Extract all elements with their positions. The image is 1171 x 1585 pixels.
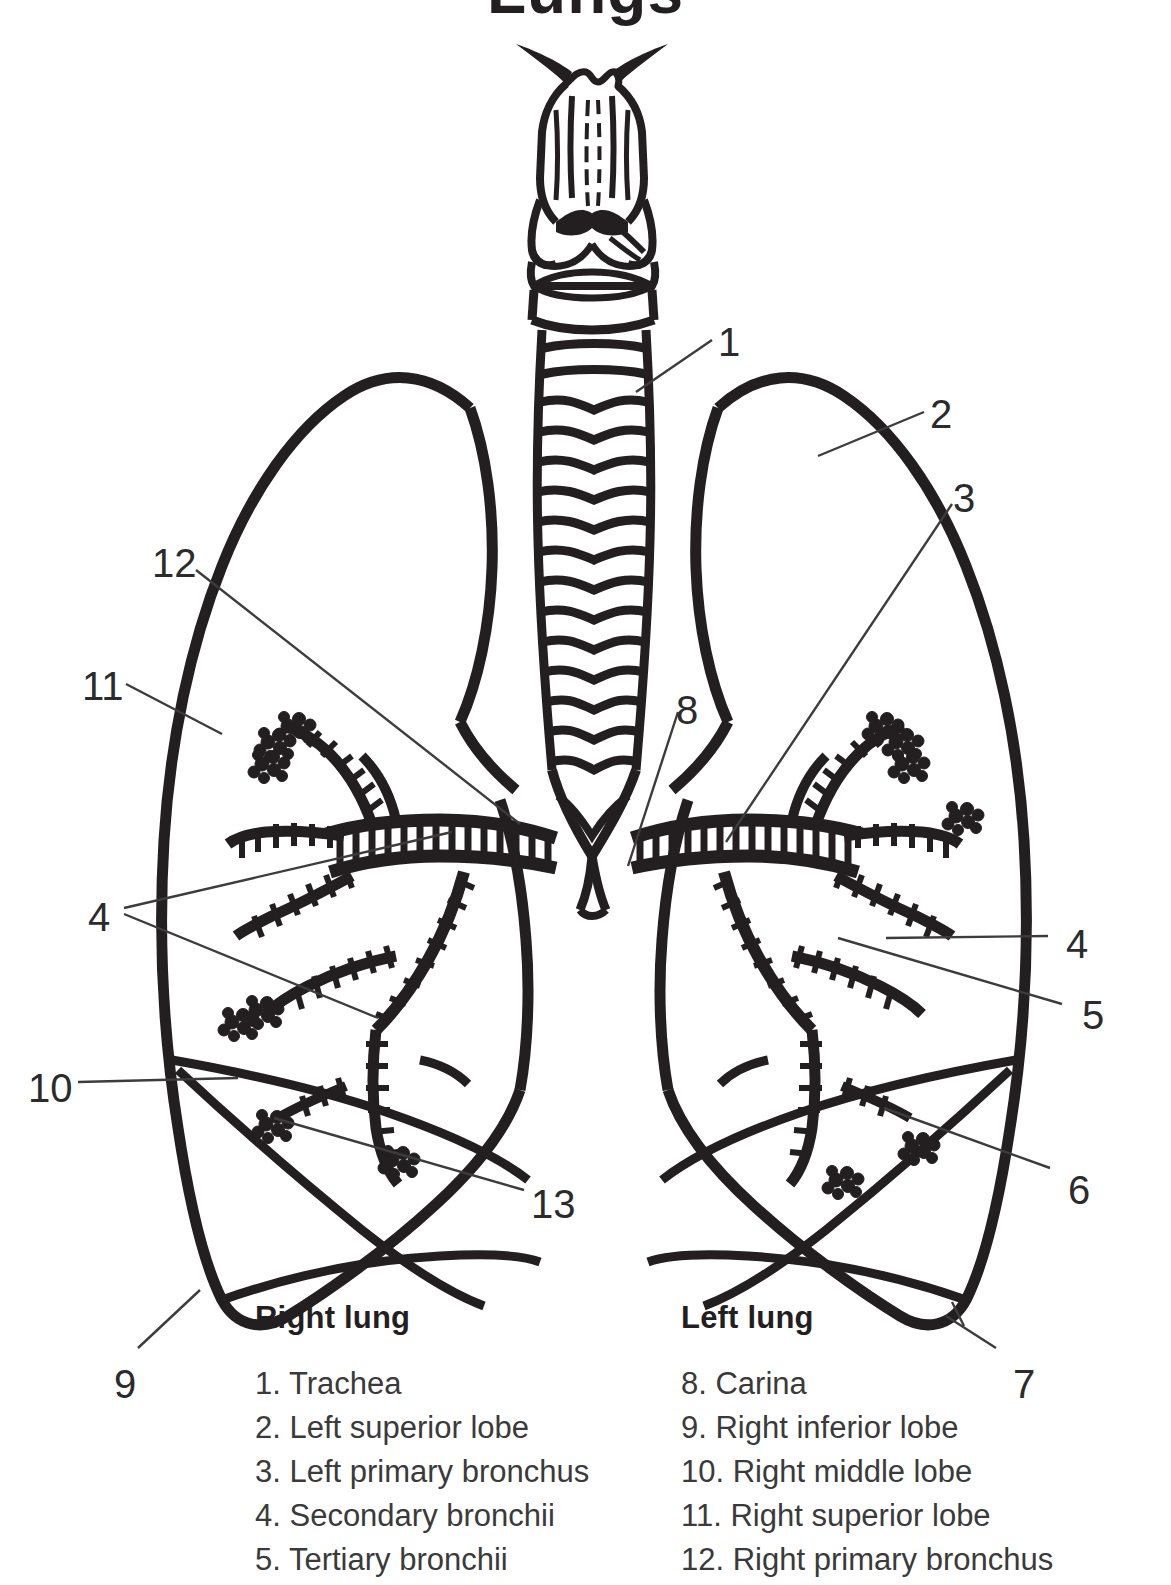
legend-item: 2. Left superior lobe — [255, 1406, 589, 1450]
leader-10 — [78, 1078, 238, 1082]
legend-item: 11. Right superior lobe — [681, 1494, 1053, 1538]
legend-heading-right-lung: Right lung — [255, 1300, 589, 1336]
callout-3: 3 — [953, 478, 975, 518]
callout-4-left-lung: 4 — [1066, 924, 1088, 964]
legend-heading-left-lung: Left lung — [681, 1300, 1053, 1336]
legend-item: 4. Secondary bronchii — [255, 1494, 589, 1538]
legend-item: 1. Trachea — [255, 1362, 589, 1406]
callout-2: 2 — [930, 394, 952, 434]
legend-item: 8. Carina — [681, 1362, 1053, 1406]
callout-8: 8 — [676, 690, 698, 730]
legend-item: 10. Right middle lobe — [681, 1450, 1053, 1494]
legend-item: 5. Tertiary bronchii — [255, 1538, 589, 1582]
callout-12: 12 — [152, 543, 197, 583]
legend: Right lung 1. Trachea 2. Left superior l… — [0, 1300, 1171, 1585]
leader-3 — [726, 504, 952, 842]
callout-13: 13 — [531, 1184, 576, 1224]
legend-item: 9. Right inferior lobe — [681, 1406, 1053, 1450]
legend-item: 12. Right primary bronchus — [681, 1538, 1053, 1582]
callout-4-right-lung: 4 — [88, 897, 110, 937]
lungs-diagram-page: Lungs — [0, 0, 1171, 1585]
right-lung-fissures — [172, 1060, 540, 1306]
callout-5: 5 — [1082, 995, 1104, 1035]
legend-column-left-lung: Left lung 8. Carina 9. Right inferior lo… — [681, 1300, 1053, 1582]
callout-6: 6 — [1068, 1170, 1090, 1210]
larynx — [516, 44, 668, 330]
callout-10: 10 — [28, 1068, 73, 1108]
callout-1: 1 — [718, 322, 740, 362]
callout-11: 11 — [82, 666, 124, 706]
legend-list-left-lung: 8. Carina 9. Right inferior lobe 10. Rig… — [681, 1362, 1053, 1582]
legend-item: 3. Left primary bronchus — [255, 1450, 589, 1494]
carina — [552, 770, 636, 916]
trachea — [537, 330, 651, 770]
legend-list-right-lung: 1. Trachea 2. Left superior lobe 3. Left… — [255, 1362, 589, 1582]
legend-column-right-lung: Right lung 1. Trachea 2. Left superior l… — [255, 1300, 589, 1582]
